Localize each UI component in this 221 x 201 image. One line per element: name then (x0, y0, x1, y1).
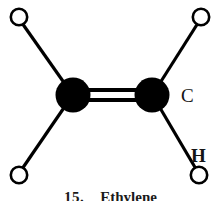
ethylene-figure: C H 15.Ethylene (0, 0, 221, 201)
atom-label-hydrogen: H (191, 146, 206, 165)
atom-hydrogen-top-right (193, 9, 209, 25)
atom-hydrogen-bottom-left (11, 167, 27, 183)
atom-carbon-right (135, 78, 170, 113)
atom-hydrogen-top-left (11, 9, 27, 25)
atom-carbon-left (56, 78, 91, 113)
bond-group-single (22, 23, 198, 169)
figure-caption: 15.Ethylene (0, 189, 221, 201)
figure-caption-number: 15. (64, 189, 84, 201)
figure-caption-title: Ethylene (100, 189, 157, 201)
atom-hydrogen-bottom-right (191, 167, 207, 183)
atom-label-carbon: C (181, 86, 194, 105)
